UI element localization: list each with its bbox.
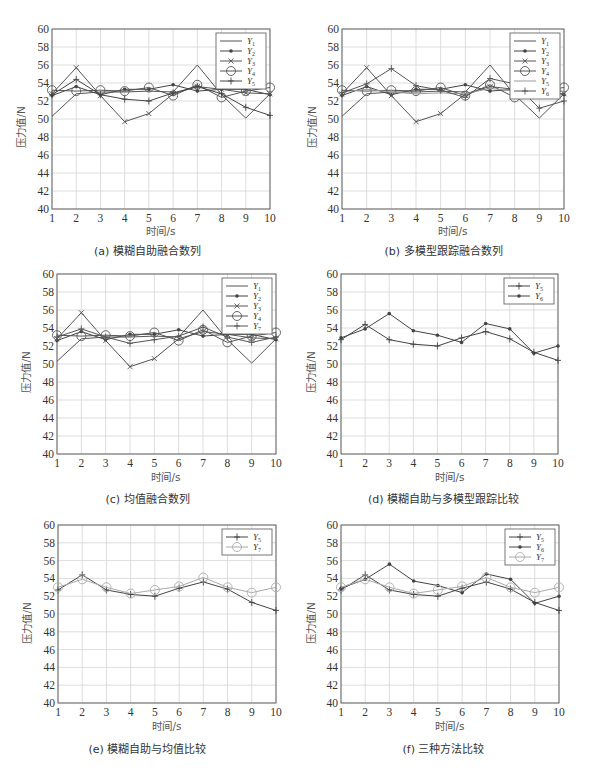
svg-text:8: 8 (225, 706, 231, 718)
svg-text:54: 54 (327, 322, 339, 334)
svg-text:4: 4 (127, 457, 133, 469)
svg-text:8: 8 (224, 457, 230, 469)
svg-text:42: 42 (328, 185, 340, 197)
svg-text:44: 44 (38, 167, 50, 179)
svg-text:46: 46 (38, 149, 50, 161)
svg-text:2: 2 (362, 706, 368, 718)
svg-text:8: 8 (219, 212, 225, 224)
chart-panel-b: 404244464850525456586012345678910Y1Y2Y3Y… (296, 0, 591, 258)
svg-text:10: 10 (552, 457, 564, 469)
svg-text:6: 6 (459, 457, 465, 469)
svg-text:8: 8 (508, 706, 514, 718)
svg-text:5: 5 (151, 457, 157, 469)
svg-text:60: 60 (327, 268, 339, 280)
svg-text:7: 7 (200, 706, 206, 718)
svg-text:46: 46 (43, 394, 55, 406)
x-axis-label: 时间/s (400, 718, 500, 733)
svg-text:40: 40 (43, 448, 55, 460)
svg-text:46: 46 (327, 644, 339, 656)
y-axis-label: 压力值/N (303, 333, 318, 393)
series-y7 (54, 573, 281, 598)
svg-text:42: 42 (38, 185, 50, 197)
svg-text:40: 40 (38, 203, 50, 215)
legend: Y1Y2Y3Y4Y7 (222, 278, 272, 334)
x-axis-label: 时间/s (400, 469, 500, 484)
svg-text:1: 1 (55, 706, 61, 718)
svg-text:1: 1 (338, 457, 344, 469)
svg-text:50: 50 (38, 113, 50, 125)
svg-text:50: 50 (327, 608, 339, 620)
y-axis-label: 压力值/N (13, 88, 28, 148)
svg-text:5: 5 (435, 706, 441, 718)
chart-caption: (b) 多模型跟踪融合数列 (296, 242, 591, 258)
svg-text:48: 48 (44, 626, 56, 638)
y-axis-label: 压力值/N (304, 88, 319, 148)
svg-text:6: 6 (176, 457, 182, 469)
svg-text:58: 58 (43, 286, 55, 298)
svg-text:40: 40 (327, 697, 339, 709)
svg-text:2: 2 (78, 457, 84, 469)
svg-text:44: 44 (327, 661, 339, 673)
chart-svg-a: 404244464850525456586012345678910Y1Y2Y3Y… (0, 0, 295, 258)
y-axis-label: 压力值/N (303, 584, 318, 644)
svg-text:9: 9 (249, 457, 255, 469)
chart-svg-f: 404244464850525456586012345678910Y5Y6Y7 (296, 516, 591, 774)
svg-text:10: 10 (264, 212, 276, 224)
svg-text:58: 58 (38, 41, 50, 53)
svg-text:7: 7 (483, 457, 489, 469)
svg-text:3: 3 (387, 706, 393, 718)
svg-text:50: 50 (327, 358, 339, 370)
chart-caption: (f) 三种方法比较 (296, 740, 591, 756)
chart-caption: (d) 模糊自助与多模型跟踪比较 (296, 490, 591, 506)
legend: Y5Y6Y7 (505, 529, 555, 565)
svg-text:54: 54 (38, 77, 50, 89)
svg-text:48: 48 (38, 131, 50, 143)
svg-text:42: 42 (44, 679, 56, 691)
svg-text:3: 3 (98, 212, 104, 224)
svg-text:3: 3 (388, 212, 394, 224)
svg-text:52: 52 (328, 95, 340, 107)
svg-text:8: 8 (507, 457, 513, 469)
svg-text:2: 2 (364, 212, 370, 224)
svg-text:56: 56 (38, 59, 50, 71)
x-axis-label: 时间/s (116, 469, 216, 484)
svg-text:56: 56 (327, 304, 339, 316)
svg-text:4: 4 (411, 706, 417, 718)
svg-text:50: 50 (328, 113, 340, 125)
svg-text:54: 54 (43, 322, 55, 334)
svg-text:54: 54 (328, 77, 340, 89)
x-axis-label: 时间/s (117, 718, 217, 733)
svg-text:2: 2 (79, 706, 85, 718)
svg-text:1: 1 (49, 212, 55, 224)
svg-text:50: 50 (44, 608, 56, 620)
chart-caption: (c) 均值融合数列 (0, 490, 295, 506)
svg-text:7: 7 (200, 457, 206, 469)
chart-panel-e: 404244464850525456586012345678910Y5Y7 压力… (0, 516, 295, 774)
svg-text:54: 54 (327, 572, 339, 584)
svg-text:2: 2 (362, 457, 368, 469)
svg-text:10: 10 (553, 706, 565, 718)
svg-text:4: 4 (410, 457, 416, 469)
svg-text:7: 7 (483, 706, 489, 718)
svg-text:1: 1 (338, 706, 344, 718)
svg-text:60: 60 (44, 519, 56, 531)
svg-text:44: 44 (327, 412, 339, 424)
chart-panel-c: 404244464850525456586012345678910Y1Y2Y3Y… (0, 258, 295, 516)
svg-text:4: 4 (128, 706, 134, 718)
svg-text:52: 52 (327, 590, 339, 602)
svg-text:10: 10 (270, 706, 282, 718)
svg-text:56: 56 (44, 555, 56, 567)
svg-text:42: 42 (43, 430, 55, 442)
chart-svg-b: 404244464850525456586012345678910Y1Y2Y3Y… (296, 0, 591, 258)
svg-text:52: 52 (43, 340, 55, 352)
chart-panel-a: 404244464850525456586012345678910Y1Y2Y3Y… (0, 0, 295, 258)
svg-text:44: 44 (328, 167, 340, 179)
svg-text:40: 40 (327, 448, 339, 460)
svg-text:60: 60 (38, 23, 50, 35)
svg-text:56: 56 (327, 555, 339, 567)
svg-text:40: 40 (328, 203, 340, 215)
svg-text:60: 60 (328, 23, 340, 35)
svg-text:42: 42 (327, 679, 339, 691)
y-axis-label: 压力值/N (19, 584, 34, 644)
legend: Y5Y7 (222, 529, 272, 555)
